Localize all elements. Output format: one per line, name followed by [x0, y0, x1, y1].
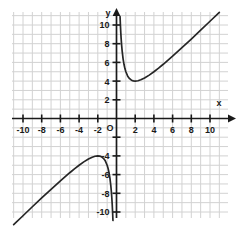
y-tick-label: -4 [101, 151, 109, 161]
y-axis-label: y [105, 8, 110, 18]
x-tick-label: -10 [16, 125, 29, 135]
x-tick-label: 2 [133, 125, 138, 135]
x-axis-label: x [216, 98, 221, 108]
y-tick-label: 4 [104, 77, 109, 87]
y-tick-label: -6 [101, 170, 109, 180]
x-tick-label: -2 [94, 125, 102, 135]
y-tick-label: 2 [104, 95, 109, 105]
x-tick-label: 8 [189, 125, 194, 135]
y-tick-label: 10 [99, 20, 109, 30]
origin-label: O [106, 123, 113, 133]
y-tick-label: -10 [96, 207, 109, 217]
y-tick-label: 6 [104, 58, 109, 68]
x-tick-label: -6 [56, 125, 64, 135]
graph-canvas: -10-8-6-4-2246810108642-4-6-8-10 x y O [0, 0, 238, 226]
x-tick-label: 10 [205, 125, 215, 135]
x-tick-label: -4 [75, 125, 83, 135]
y-tick-label: -8 [101, 189, 109, 199]
function-graph: -10-8-6-4-2246810108642-4-6-8-10 x y O [0, 0, 238, 226]
x-tick-label: 4 [151, 125, 156, 135]
x-tick-label: -8 [38, 125, 46, 135]
x-tick-label: 6 [170, 125, 175, 135]
y-tick-label: 8 [104, 39, 109, 49]
